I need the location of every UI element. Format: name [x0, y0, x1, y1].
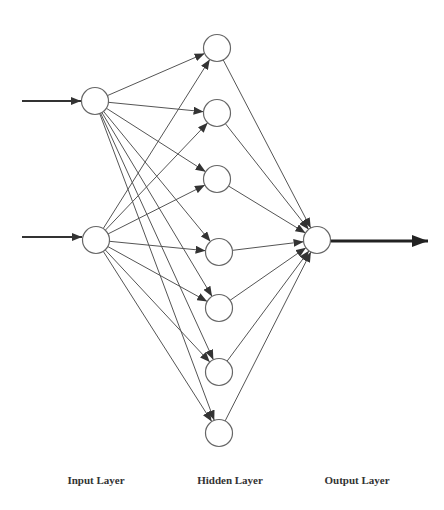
connection-edge-hidden3-output0: [232, 242, 303, 251]
hidden-node-4: [206, 295, 233, 322]
connection-edge-hidden1-output0: [225, 124, 308, 230]
hidden-node-1: [204, 100, 231, 127]
input-node-1: [83, 227, 110, 254]
input-layer-label: Input Layer: [67, 474, 124, 486]
hidden-layer-label: Hidden Layer: [197, 474, 263, 486]
connection-edge-hidden0-output0: [223, 60, 311, 228]
neural-network-diagram: [0, 0, 444, 510]
connection-edge-hidden4-output0: [230, 248, 306, 301]
hidden-node-2: [204, 166, 231, 193]
output-node-0: [304, 227, 331, 254]
input-node-0: [82, 88, 109, 115]
connection-edge-input0-hidden1: [108, 102, 203, 111]
connection-edge-hidden6-output0: [225, 252, 311, 421]
connection-edge-input1-hidden4: [108, 247, 207, 302]
connection-edge-input1-hidden2: [108, 185, 205, 234]
hidden-node-3: [206, 239, 233, 266]
output-layer-label: Output Layer: [324, 474, 389, 486]
connection-edge-input0-hidden5: [101, 113, 214, 359]
connection-edge-input0-hidden6: [100, 114, 215, 421]
hidden-node-0: [204, 35, 231, 62]
connection-edge-input1-hidden1: [105, 123, 207, 230]
connection-edge-input0-hidden0: [107, 53, 204, 95]
connection-edge-input1-hidden6: [103, 251, 211, 421]
connection-edge-input1-hidden3: [109, 241, 205, 250]
hidden-node-5: [206, 359, 233, 386]
hidden-node-6: [206, 420, 233, 447]
connection-edge-hidden2-output0: [229, 186, 306, 233]
neuron-nodes: [82, 35, 331, 447]
connection-edge-hidden5-output0: [227, 251, 309, 361]
